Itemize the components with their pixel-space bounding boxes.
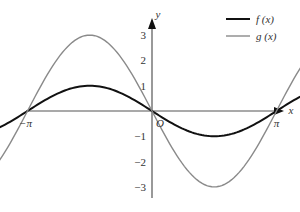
legend-label: g (x) [256, 30, 277, 43]
y-tick-label: −3 [134, 181, 146, 193]
origin-label: O [156, 117, 164, 129]
y-axis-label: y [155, 8, 161, 20]
y-tick-label: −1 [134, 130, 146, 142]
x-tick-label: −π [19, 117, 32, 129]
y-tick-label: 2 [141, 54, 147, 66]
x-axis-label: x [288, 104, 294, 116]
y-tick-label: −2 [134, 156, 146, 168]
chart: xyO−2π−ππ2π321−1−2−3f (x)g (x) [0, 0, 300, 212]
y-tick-label: 3 [141, 29, 147, 41]
y-tick-label: 1 [141, 80, 147, 92]
legend-label: f (x) [256, 13, 274, 26]
x-tick-label: π [274, 117, 280, 129]
